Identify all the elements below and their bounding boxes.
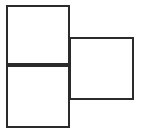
squares-diagram [0, 0, 143, 136]
figure-canvas [0, 0, 143, 136]
background-rect [0, 0, 143, 136]
